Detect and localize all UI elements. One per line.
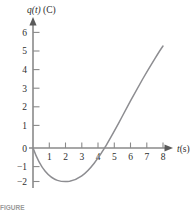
figure-caption-keyword: FIGURE bbox=[0, 204, 25, 210]
y-tick-label-minus-1: −1 bbox=[17, 162, 27, 172]
y-tick-label-0: 0 bbox=[22, 144, 27, 154]
y-axis-label: q(t) (C) bbox=[27, 5, 56, 16]
y-axis-ticks bbox=[33, 32, 40, 181]
figure-caption-fragment: FIGURE bbox=[0, 204, 196, 210]
x-tick-label-5: 5 bbox=[112, 152, 117, 162]
x-tick-label-8: 8 bbox=[161, 152, 166, 162]
x-axis-label: t(s) bbox=[177, 144, 190, 155]
y-tick-label-5: 5 bbox=[22, 46, 27, 56]
chart-canvas: 6 5 4 3 2 1 0 −1 −2 1 2 3 4 5 6 7 8 q(t)… bbox=[0, 0, 196, 210]
x-tick-label-7: 7 bbox=[144, 152, 149, 162]
y-axis-label-symbol: q(t) bbox=[27, 5, 41, 16]
y-tick-label-minus-2: −2 bbox=[17, 177, 27, 187]
x-axis-label-unit: (s) bbox=[180, 144, 190, 155]
y-tick-label-3: 3 bbox=[22, 84, 27, 94]
figure-container: 6 5 4 3 2 1 0 −1 −2 1 2 3 4 5 6 7 8 q(t)… bbox=[0, 0, 196, 210]
y-axis-label-unit: (C) bbox=[41, 5, 56, 16]
y-tick-label-1: 1 bbox=[22, 121, 27, 131]
y-tick-label-2: 2 bbox=[22, 102, 27, 112]
y-axis-arrowhead bbox=[29, 17, 36, 26]
x-tick-label-6: 6 bbox=[128, 152, 133, 162]
x-tick-label-3: 3 bbox=[79, 152, 84, 162]
x-axis-arrowhead bbox=[165, 144, 174, 151]
y-tick-label-4: 4 bbox=[22, 65, 27, 75]
y-tick-label-6: 6 bbox=[22, 28, 27, 38]
x-tick-label-2: 2 bbox=[63, 152, 68, 162]
x-tick-label-1: 1 bbox=[47, 152, 52, 162]
